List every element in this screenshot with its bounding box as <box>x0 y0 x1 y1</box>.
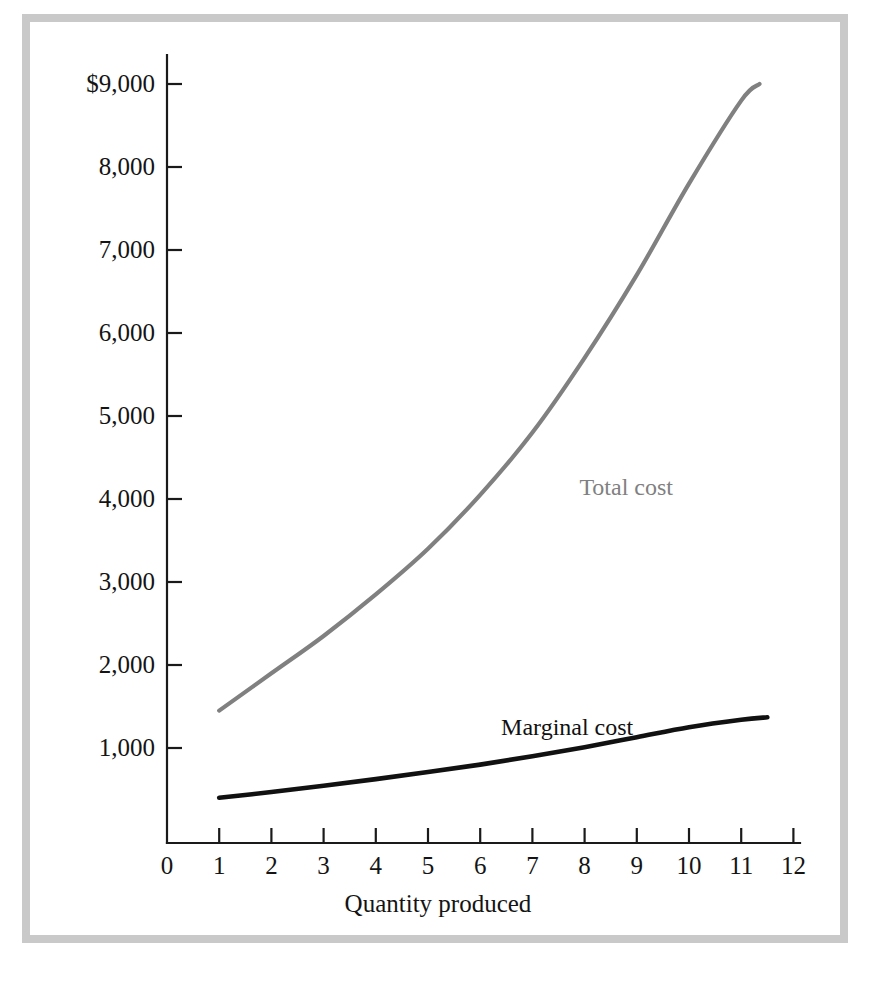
total-cost-series-label: Total cost <box>579 475 673 499</box>
y-tick-label-1000: 1,000 <box>99 735 155 760</box>
x-tick-label-0: 0 <box>137 853 197 878</box>
y-tick-label-4000: 4,000 <box>99 486 155 511</box>
x-tick-label-1: 1 <box>189 853 249 878</box>
series-curves <box>219 84 767 798</box>
x-tick-label-11: 11 <box>711 853 771 878</box>
y-tick-label-6000: 6,000 <box>99 320 155 345</box>
x-tick-label-6: 6 <box>450 853 510 878</box>
x-tick-label-10: 10 <box>659 853 719 878</box>
y-tick-label-5000: 5,000 <box>99 403 155 428</box>
y-tick-label-9000: $9,000 <box>86 71 155 96</box>
y-tick-label-8000: 8,000 <box>99 154 155 179</box>
x-tick-label-12: 12 <box>763 853 823 878</box>
marginal-cost-series-label: Marginal cost <box>501 715 633 739</box>
figure-root: 1,0002,0003,0004,0005,0006,0007,0008,000… <box>0 0 876 981</box>
x-tick-label-9: 9 <box>607 853 667 878</box>
x-tick-label-7: 7 <box>502 853 562 878</box>
x-tick-label-5: 5 <box>398 853 458 878</box>
y-tick-label-2000: 2,000 <box>99 652 155 677</box>
marginal-cost-curve <box>219 717 767 798</box>
x-axis-ticks <box>219 828 793 843</box>
y-axis-ticks <box>167 84 182 748</box>
x-tick-label-2: 2 <box>241 853 301 878</box>
x-tick-label-3: 3 <box>294 853 354 878</box>
x-axis-title: Quantity produced <box>0 890 876 918</box>
y-tick-label-3000: 3,000 <box>99 569 155 594</box>
x-tick-label-8: 8 <box>555 853 615 878</box>
total-cost-curve <box>219 84 759 711</box>
y-tick-label-7000: 7,000 <box>99 237 155 262</box>
x-tick-label-4: 4 <box>346 853 406 878</box>
